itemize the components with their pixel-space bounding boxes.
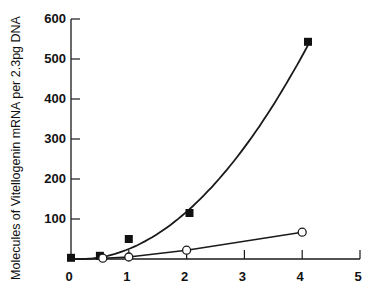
filled-square-marker — [304, 38, 312, 46]
y-tick-label: 300 — [44, 131, 66, 146]
circles-fit-line — [83, 232, 303, 259]
x-tick-label: 3 — [239, 269, 246, 284]
open-circle-marker — [99, 254, 107, 262]
data-markers — [67, 38, 312, 262]
y-tick-label: 500 — [44, 51, 66, 66]
open-circle-marker — [183, 246, 191, 254]
x-tick-label: 5 — [354, 269, 361, 284]
y-tick-label: 100 — [44, 211, 66, 226]
squares-fit-curve — [71, 45, 308, 259]
x-tick-label: 0 — [65, 269, 72, 284]
y-tick-label: 400 — [44, 91, 66, 106]
x-tick-label: 4 — [297, 269, 305, 284]
x-tick-label: 1 — [123, 269, 130, 284]
y-tick-label: 600 — [44, 11, 66, 26]
filled-square-marker — [125, 235, 133, 243]
chart: 100200300400500600012345 Molecules of Vi… — [0, 0, 370, 296]
fit-curves — [71, 45, 308, 259]
axes: 100200300400500600012345 — [44, 11, 361, 284]
y-tick-label: 200 — [44, 171, 66, 186]
open-circle-marker — [125, 253, 133, 261]
open-circle-marker — [298, 228, 306, 236]
x-tick-label: 2 — [181, 269, 188, 284]
filled-square-marker — [185, 209, 193, 217]
y-axis-label: Molecules of Vitellogenin mRNA per 2.3pg… — [9, 15, 23, 279]
filled-square-marker — [67, 254, 75, 262]
